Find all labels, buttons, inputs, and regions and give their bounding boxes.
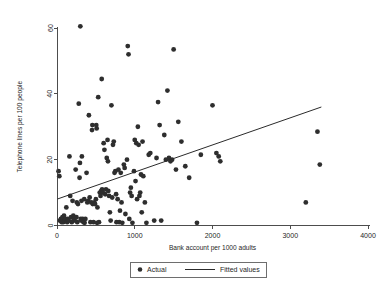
data-points-group: [56, 24, 322, 225]
x-tick-label: 3000: [282, 232, 298, 239]
data-point: [94, 126, 99, 131]
data-point: [152, 218, 157, 223]
data-point: [136, 142, 141, 147]
x-axis-title: Bank account per 1000 adults: [169, 244, 257, 252]
fitted-values-line: [57, 107, 321, 199]
data-point: [315, 129, 320, 134]
data-point: [127, 217, 132, 222]
data-point: [99, 77, 104, 82]
data-point: [102, 147, 107, 152]
data-point: [82, 220, 87, 225]
data-point: [179, 139, 184, 144]
data-point: [140, 139, 145, 144]
chart-canvas: 01000200030004000 0204060 Bank account p…: [0, 0, 389, 296]
data-point: [70, 198, 75, 203]
data-point: [64, 205, 69, 210]
data-point: [176, 119, 181, 124]
data-point: [126, 52, 131, 57]
y-axis-title: Telephone lines per 100 people: [16, 81, 24, 173]
data-point: [303, 200, 308, 205]
data-point: [125, 44, 130, 49]
data-point: [97, 220, 102, 225]
data-point: [165, 88, 170, 93]
data-point: [218, 159, 223, 164]
y-tick-label: 60: [47, 24, 54, 32]
data-point: [77, 175, 82, 180]
scatter-chart: 01000200030004000 0204060 Bank account p…: [0, 0, 389, 296]
data-point: [67, 154, 72, 159]
x-tick-label: 1000: [127, 232, 143, 239]
legend-label-fitted-values: Fitted values: [220, 266, 260, 273]
data-point: [108, 218, 113, 223]
data-point: [76, 101, 81, 106]
data-point: [129, 193, 134, 198]
data-point: [107, 210, 112, 215]
data-point: [128, 185, 133, 190]
data-point: [114, 192, 119, 197]
y-tick-label: 0: [47, 223, 54, 227]
data-point: [216, 154, 221, 159]
data-point: [93, 197, 98, 202]
data-point: [156, 100, 161, 105]
data-point: [195, 220, 200, 225]
data-point: [115, 197, 120, 202]
data-point: [76, 202, 81, 207]
data-point: [84, 170, 89, 175]
x-tick-label: 0: [55, 232, 59, 239]
data-point: [118, 208, 123, 213]
data-point: [119, 200, 124, 205]
data-point: [78, 161, 83, 166]
data-point: [148, 151, 153, 156]
data-point: [73, 167, 78, 172]
legend-actual-marker-icon: [138, 267, 143, 272]
data-point: [90, 128, 95, 133]
data-point: [317, 162, 322, 167]
x-tick-label: 4000: [360, 232, 376, 239]
data-point: [187, 175, 192, 180]
y-tick-label: 40: [47, 90, 54, 98]
data-point: [106, 189, 111, 194]
data-point: [111, 139, 116, 144]
data-point: [110, 195, 115, 200]
data-point: [120, 220, 125, 225]
data-point: [138, 190, 143, 195]
data-point: [210, 103, 215, 108]
data-point: [159, 218, 164, 223]
data-point: [174, 167, 179, 172]
data-point: [106, 159, 111, 164]
data-point: [135, 124, 140, 129]
legend-label-actual: Actual: [147, 266, 167, 273]
data-point: [130, 220, 135, 225]
data-point: [141, 174, 146, 179]
data-point: [101, 141, 106, 146]
data-point: [86, 113, 91, 118]
data-point: [57, 174, 62, 179]
data-point: [123, 212, 128, 217]
chart-legend: Actual Fitted values: [130, 262, 266, 277]
y-tick-label: 20: [47, 156, 54, 164]
data-point: [78, 24, 83, 29]
data-point: [79, 154, 84, 159]
data-point: [154, 156, 159, 161]
data-point: [133, 179, 138, 184]
data-point: [105, 138, 110, 143]
data-point: [139, 210, 144, 215]
data-point: [144, 220, 149, 225]
data-point: [122, 166, 127, 171]
data-point: [162, 133, 167, 138]
data-point: [183, 164, 188, 169]
data-point: [95, 205, 100, 210]
data-point: [96, 95, 101, 100]
data-point: [87, 195, 92, 200]
data-point: [157, 123, 162, 128]
x-tick-label: 2000: [205, 232, 221, 239]
data-point: [171, 47, 176, 52]
data-point: [198, 152, 203, 157]
x-axis-ticks: 01000200030004000: [55, 226, 376, 239]
data-point: [142, 200, 147, 205]
data-point: [74, 215, 79, 220]
data-point: [125, 157, 130, 162]
y-axis-ticks: 0204060: [47, 24, 58, 227]
data-point: [109, 103, 114, 108]
data-point: [118, 170, 123, 175]
